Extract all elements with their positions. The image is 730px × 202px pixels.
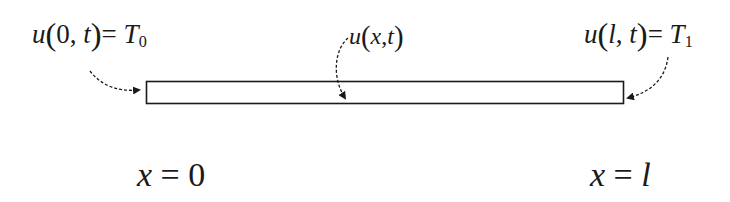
- arg-position: l: [608, 19, 616, 49]
- right-position-label: x = l: [590, 158, 651, 192]
- arg-time: t: [387, 23, 394, 49]
- arg-time: t: [629, 19, 637, 49]
- equals-sign: =: [648, 19, 663, 49]
- interior-temperature-label: u(x,t): [349, 22, 404, 51]
- temperature-subscript: 0: [139, 33, 147, 51]
- func-symbol: u: [349, 23, 361, 49]
- arg-position: 0: [56, 19, 70, 49]
- position-variable: x: [137, 156, 152, 193]
- left-boundary-condition-label: u(0, t)= T0: [32, 18, 147, 50]
- temperature-symbol: T: [670, 19, 685, 49]
- arg-position: x: [371, 23, 382, 49]
- func-symbol: u: [584, 19, 598, 49]
- right-boundary-condition-label: u(l, t)= T1: [584, 18, 693, 50]
- temperature-symbol: T: [124, 19, 139, 49]
- position-value: 0: [188, 156, 205, 193]
- equals-sign: =: [102, 19, 117, 49]
- left-boundary-arrow: [90, 71, 139, 90]
- rod: [147, 82, 624, 104]
- position-variable: x: [590, 156, 605, 193]
- left-position-label: x = 0: [137, 158, 205, 192]
- equals-sign: =: [614, 156, 633, 193]
- position-value: l: [641, 156, 650, 193]
- arg-time: t: [83, 19, 91, 49]
- right-boundary-arrow: [628, 57, 668, 98]
- equals-sign: =: [161, 156, 180, 193]
- func-symbol: u: [32, 19, 46, 49]
- temperature-subscript: 1: [685, 33, 693, 51]
